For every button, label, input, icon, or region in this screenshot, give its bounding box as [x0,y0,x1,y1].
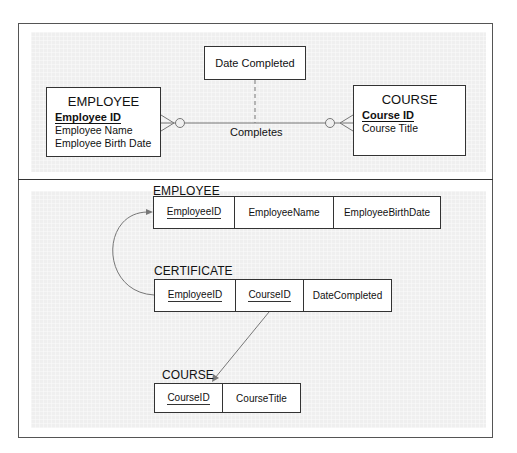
er-entity-course: COURSE Course ID Course Title [353,85,466,156]
table-employee: EmployeeID EmployeeName EmployeeBirthDat… [153,196,441,229]
entity-name: COURSE [354,93,465,106]
table-certificate: EmployeeID CourseID DateCompleted [154,279,392,312]
table-column: CourseTitle [223,384,300,412]
fk-arrow-employee [113,212,154,295]
table-column: CourseID [236,280,304,311]
table-column: DateCompleted [304,280,391,311]
relationship-attribute-label: Date Completed [215,57,295,69]
table-column: EmployeeBirthDate [334,197,440,228]
table-name-certificate: CERTIFICATE [154,264,233,278]
entity-primary-key: Course ID [354,109,465,122]
table-course: CourseID CourseTitle [154,383,301,413]
table-name-course: COURSE [162,368,214,382]
er-entity-employee: EMPLOYEE Employee ID Employee Name Emplo… [46,87,161,157]
table-column: EmployeeID [155,280,236,311]
table-column: EmployeeName [235,197,334,228]
arrowhead-employee-icon [146,209,153,215]
entity-primary-key: Employee ID [47,111,160,124]
relationship-attribute-box: Date Completed [204,46,306,80]
entity-attribute: Employee Birth Date [47,137,160,150]
entity-attribute: Course Title [354,122,465,135]
relationship-name: Completes [230,126,283,138]
table-column: CourseID [155,384,223,412]
table-column: EmployeeID [154,197,235,228]
fk-arrow-course [215,312,269,378]
entity-attribute: Employee Name [47,124,160,137]
entity-name: EMPLOYEE [47,95,160,108]
